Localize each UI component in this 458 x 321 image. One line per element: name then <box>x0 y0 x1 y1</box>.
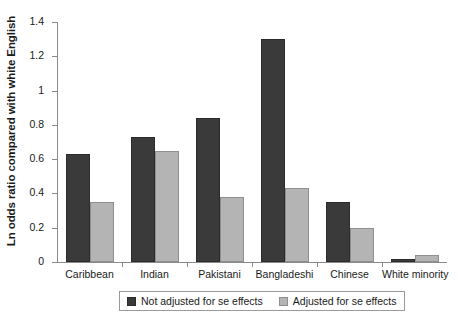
bar-group <box>261 22 309 262</box>
y-axis-line <box>57 22 58 262</box>
bar-group <box>391 22 439 262</box>
plot-area: 00.20.40.60.811.21.4 CaribbeanIndianPaki… <box>57 22 447 262</box>
y-axis-tick-label: 0.6 <box>29 152 44 164</box>
x-axis-category-label: Pakistani <box>187 268 252 280</box>
y-axis-tick: 1 <box>52 91 57 92</box>
x-axis-category-label: Caribbean <box>57 268 122 280</box>
x-axis-tick <box>252 262 253 267</box>
chart-legend: Not adjusted for se effectsAdjusted for … <box>119 291 405 311</box>
y-axis-tick-label: 0.2 <box>29 221 44 233</box>
y-axis-tick: 1.2 <box>52 56 57 57</box>
x-axis-tick <box>382 262 383 267</box>
y-axis-tick: 0.4 <box>52 193 57 194</box>
bar <box>131 137 155 262</box>
y-axis-tick-label: 0 <box>38 255 44 267</box>
bar <box>196 118 220 262</box>
legend-item[interactable]: Adjusted for se effects <box>279 295 397 307</box>
x-axis-category-label: Indian <box>122 268 187 280</box>
bar-chart-figure: Ln odds ratio compared with white Englis… <box>0 0 458 321</box>
bar-group <box>131 22 179 262</box>
bar <box>155 151 179 262</box>
y-axis-tick-label: 0.4 <box>29 186 44 198</box>
x-axis-tick <box>317 262 318 267</box>
bar <box>285 188 309 262</box>
x-axis-tick <box>187 262 188 267</box>
bar-group <box>196 22 244 262</box>
x-axis-category-label: Bangladeshi <box>252 268 317 280</box>
dark-swatch-icon <box>127 297 136 306</box>
bar <box>261 39 285 262</box>
bar-group <box>326 22 374 262</box>
bar <box>66 154 90 262</box>
bar <box>415 255 439 262</box>
y-axis-tick-label: 0.8 <box>29 118 44 130</box>
bar <box>391 259 415 262</box>
x-axis-category-label: White minority <box>382 268 447 280</box>
y-axis-tick: 0.6 <box>52 159 57 160</box>
y-axis-tick-label: 1.4 <box>29 15 44 27</box>
x-axis-category-label: Chinese <box>317 268 382 280</box>
bar-group <box>66 22 114 262</box>
y-axis-tick: 0.8 <box>52 125 57 126</box>
y-axis-tick: 0 <box>52 262 57 263</box>
y-axis-tick-label: 1.2 <box>29 49 44 61</box>
y-axis-title: Ln odds ratio compared with white Englis… <box>0 0 22 262</box>
light-swatch-icon <box>279 297 288 306</box>
bar <box>350 228 374 262</box>
bar <box>326 202 350 262</box>
x-axis-tick <box>122 262 123 267</box>
bar <box>90 202 114 262</box>
legend-item[interactable]: Not adjusted for se effects <box>127 295 263 307</box>
bar <box>220 197 244 262</box>
y-axis-tick-label: 1 <box>38 84 44 96</box>
y-axis-tick: 1.4 <box>52 22 57 23</box>
y-axis-title-text: Ln odds ratio compared with white Englis… <box>5 16 17 246</box>
legend-item-label: Adjusted for se effects <box>293 295 397 307</box>
legend-item-label: Not adjusted for se effects <box>141 295 263 307</box>
y-axis-tick: 0.2 <box>52 228 57 229</box>
